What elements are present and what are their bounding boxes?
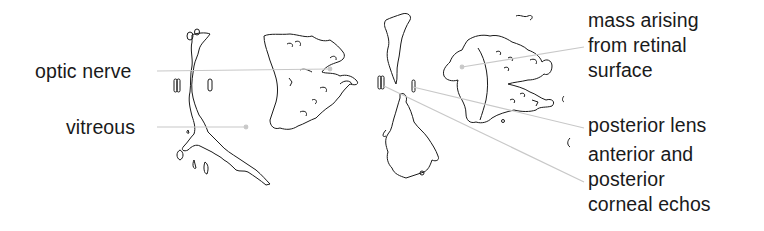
label-mass-line3: surface <box>588 57 653 83</box>
leader-optic-nerve <box>157 69 330 71</box>
left-upper-wall-echo <box>182 33 270 185</box>
leader-lines <box>157 47 584 182</box>
leader-posterior-lens <box>413 87 584 128</box>
label-corneal-line2: posterior <box>588 166 665 192</box>
leader-corneal-echos <box>384 86 584 182</box>
label-corneal-line1: anterior and <box>588 141 693 167</box>
leader-mass <box>462 47 584 67</box>
label-vitreous: vitreous <box>66 114 135 140</box>
left-lens-echo <box>208 79 212 91</box>
retinal-surface-arc <box>478 48 488 120</box>
label-corneal-line3: corneal echos <box>588 191 711 217</box>
label-mass-line1: mass arising <box>588 7 699 33</box>
right-mass-echo <box>443 35 553 123</box>
label-posterior-lens: posterior lens <box>588 112 706 138</box>
echo-outlines <box>174 13 570 185</box>
right-lower-wall-echo <box>386 93 439 178</box>
label-optic-nerve: optic nerve <box>35 58 132 84</box>
right-lens-echo <box>412 80 415 92</box>
label-mass-line2: from retinal <box>588 32 687 58</box>
right-upper-wall-echo <box>385 13 411 84</box>
ultrasound-diagram: optic nerve vitreous mass arising from r… <box>0 0 764 231</box>
